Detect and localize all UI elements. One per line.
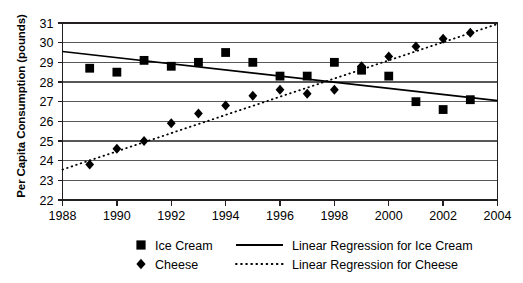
legend-label-ice-cream: Ice Cream (155, 239, 213, 253)
y-axis-title: Per Capita Consumption (pounds) (15, 6, 27, 206)
x-tick-label-2004: 2004 (484, 209, 512, 223)
data-point-ice-cream-1994 (221, 48, 230, 57)
x-ticks-group (58, 23, 498, 206)
y-tick-label-30: 30 (40, 36, 54, 50)
data-point-ice-cream-2000 (384, 72, 393, 81)
data-point-ice-cream-1998 (330, 58, 339, 67)
y-tick-label-28: 28 (40, 76, 54, 90)
y-tick-label-25: 25 (40, 135, 54, 149)
y-tick-labels-group: 22232425262728293031 (40, 17, 54, 208)
y-tick-label-22: 22 (40, 194, 54, 208)
x-tick-label-1998: 1998 (320, 209, 348, 223)
data-point-cheese-1996 (276, 85, 285, 95)
data-point-ice-cream-1992 (167, 62, 176, 71)
legend-label-solid-line-sample: Linear Regression for Ice Cream (292, 239, 473, 253)
data-point-ice-cream-1996 (276, 72, 285, 81)
legend-diamond-marker (136, 259, 145, 269)
trendline-cheese (63, 24, 498, 170)
y-tick-label-31: 31 (40, 17, 54, 31)
legend-group: Ice CreamLinear Regression for Ice Cream… (136, 239, 472, 272)
data-point-ice-cream-1989 (85, 64, 94, 73)
x-tick-label-2000: 2000 (375, 209, 403, 223)
data-point-cheese-1991 (140, 136, 149, 146)
data-point-cheese-2000 (384, 51, 393, 61)
data-point-ice-cream-1991 (140, 56, 149, 65)
data-point-cheese-1992 (167, 118, 176, 128)
data-point-cheese-1993 (194, 108, 203, 118)
y-tick-label-29: 29 (40, 56, 54, 70)
x-tick-label-1988: 1988 (49, 209, 77, 223)
y-tick-label-26: 26 (40, 115, 54, 129)
chart-svg: 22232425262728293031 1988199019921994199… (0, 0, 523, 283)
x-tick-label-1994: 1994 (212, 209, 240, 223)
data-point-ice-cream-2002 (439, 105, 448, 114)
data-points-group (85, 28, 474, 170)
y-tick-label-23: 23 (40, 174, 54, 188)
data-point-cheese-1997 (303, 89, 312, 99)
data-point-ice-cream-1997 (303, 72, 312, 81)
trendlines-group (63, 24, 498, 170)
x-tick-label-1996: 1996 (266, 209, 294, 223)
y-tick-label-27: 27 (40, 95, 54, 109)
legend-square-marker (136, 240, 145, 249)
data-point-cheese-2003 (466, 28, 475, 38)
gridlines-group (63, 23, 498, 200)
data-point-cheese-1995 (248, 91, 257, 101)
x-tick-label-2002: 2002 (429, 209, 457, 223)
y-tick-label-24: 24 (40, 154, 54, 168)
data-point-ice-cream-1990 (112, 68, 121, 77)
data-point-ice-cream-2003 (466, 95, 475, 104)
data-point-ice-cream-2001 (412, 97, 421, 106)
x-tick-label-1990: 1990 (103, 209, 131, 223)
x-tick-labels-group: 198819901992199419961998200020022004 (49, 209, 512, 223)
data-point-cheese-1998 (330, 85, 339, 95)
x-tick-label-1992: 1992 (157, 209, 185, 223)
legend-label-dotted-line-sample: Linear Regression for Cheese (292, 258, 458, 272)
data-point-ice-cream-1995 (248, 58, 257, 67)
axes-group (63, 23, 498, 201)
legend-label-cheese: Cheese (155, 258, 198, 272)
data-point-ice-cream-1993 (194, 58, 203, 67)
chart-container: Per Capita Consumption (pounds) 22232425… (0, 0, 523, 283)
